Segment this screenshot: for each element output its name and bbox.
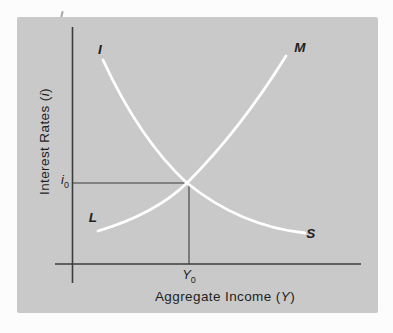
is-curve-bottom-label: S bbox=[303, 226, 319, 242]
y0-base: Y bbox=[182, 267, 191, 282]
x-axis-title: Aggregate Income (Y) bbox=[125, 288, 325, 305]
is-curve bbox=[103, 60, 305, 233]
islm-plot-canvas bbox=[0, 0, 393, 333]
lm-curve bbox=[98, 56, 286, 231]
lm-curve-bottom-label: L bbox=[85, 210, 101, 226]
y-axis-title: Interest Rates (i) bbox=[36, 67, 53, 217]
y0-axis-value-label: Y0 bbox=[173, 267, 205, 283]
lm-curve-top-label: M bbox=[291, 40, 309, 56]
i0-subscript: 0 bbox=[64, 180, 69, 190]
y-axis-title-text: Interest Rates ( bbox=[37, 96, 52, 195]
x-axis-title-text: Aggregate Income ( bbox=[155, 289, 281, 304]
islm-figure-page: { "figure": { "y_axis_label": { "prefix"… bbox=[0, 0, 393, 333]
y0-subscript: 0 bbox=[191, 275, 196, 285]
y-axis-variable: i bbox=[37, 93, 52, 96]
y-axis-title-suffix: ) bbox=[37, 88, 52, 93]
x-axis-variable: Y bbox=[281, 289, 290, 304]
is-curve-top-label: I bbox=[92, 42, 108, 58]
x-axis-title-suffix: ) bbox=[290, 289, 295, 304]
